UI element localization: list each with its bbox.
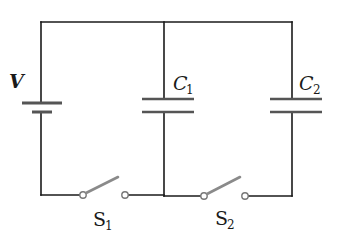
circuit-diagram: V C 1 C 2 S 1 S 2 xyxy=(0,0,343,240)
s1-label-subscript: 1 xyxy=(105,219,113,233)
c2-label-subscript: 2 xyxy=(313,83,321,97)
battery: V xyxy=(9,70,62,112)
capacitor-c2: C 2 xyxy=(270,72,322,112)
c2-label: C xyxy=(299,72,314,94)
switch-s2: S 2 xyxy=(201,177,248,232)
c1-label-subscript: 1 xyxy=(186,83,194,97)
capacitor-c1: C 1 xyxy=(142,72,194,112)
switch-s1: S 1 xyxy=(80,177,128,233)
s1-blade xyxy=(86,177,118,193)
s2-blade xyxy=(207,177,240,194)
s2-label-subscript: 2 xyxy=(227,218,235,232)
s1-right-terminal xyxy=(122,192,128,198)
wires xyxy=(41,22,292,196)
s2-right-terminal xyxy=(242,193,248,199)
battery-label: V xyxy=(9,70,26,92)
